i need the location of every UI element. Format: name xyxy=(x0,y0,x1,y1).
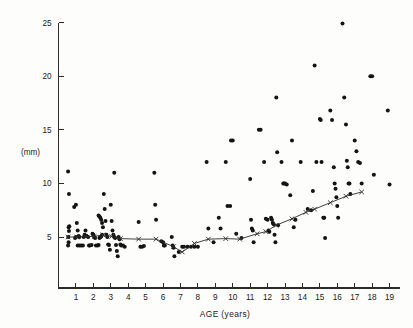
trend-marker-x xyxy=(328,200,333,205)
data-point xyxy=(182,245,186,249)
data-point xyxy=(66,244,70,248)
data-point xyxy=(342,96,346,100)
x-tick-label: 12 xyxy=(263,293,273,302)
data-point xyxy=(275,150,279,154)
trend-marker-x xyxy=(304,210,309,215)
data-point xyxy=(360,181,364,185)
data-point xyxy=(336,216,340,220)
data-point xyxy=(372,173,376,177)
data-point xyxy=(280,160,284,164)
data-point xyxy=(103,207,107,211)
data-point xyxy=(153,203,157,207)
y-tick-label: 15 xyxy=(42,126,52,135)
data-point xyxy=(262,160,266,164)
data-point xyxy=(90,243,94,247)
data-point xyxy=(123,245,127,249)
data-point xyxy=(116,254,120,258)
data-point xyxy=(142,244,146,248)
data-point xyxy=(314,160,318,164)
data-point xyxy=(330,118,334,122)
data-point xyxy=(115,249,119,253)
data-point xyxy=(228,204,232,208)
data-point xyxy=(273,240,277,244)
x-tick-label: 3 xyxy=(108,293,113,302)
data-point xyxy=(217,216,221,220)
data-point xyxy=(259,128,263,132)
data-point xyxy=(97,243,101,247)
y-tick-label: 25 xyxy=(42,19,52,28)
x-tick-label: 15 xyxy=(315,293,325,302)
x-axis-title: AGE (years) xyxy=(200,309,250,319)
x-tick-label: 7 xyxy=(178,293,183,302)
data-point xyxy=(84,229,88,233)
data-point xyxy=(332,165,336,169)
data-point xyxy=(386,108,390,112)
data-point xyxy=(252,240,256,244)
data-point xyxy=(311,189,315,193)
data-point xyxy=(100,221,104,225)
data-point xyxy=(74,203,78,207)
data-point xyxy=(172,254,176,258)
data-point xyxy=(108,248,112,252)
y-tick-labels: 510152025 xyxy=(42,19,52,243)
x-tick-label: 2 xyxy=(91,293,96,302)
data-points xyxy=(66,22,391,259)
trend-marker-x xyxy=(290,216,295,221)
x-tick-label: 6 xyxy=(161,293,166,302)
x-tick-label: 17 xyxy=(350,293,360,302)
x-tick-label: 11 xyxy=(246,293,255,302)
data-point xyxy=(345,159,349,163)
y-axis-unit-label: (mm) xyxy=(21,148,40,157)
tick-marks xyxy=(59,23,390,289)
y-tick-label: 5 xyxy=(47,233,52,242)
data-point xyxy=(231,138,235,142)
data-point xyxy=(320,160,324,164)
data-point xyxy=(102,192,106,196)
data-point xyxy=(67,192,71,196)
data-point xyxy=(333,181,337,185)
data-point xyxy=(334,195,338,199)
y-tick-label: 20 xyxy=(42,72,52,81)
data-point xyxy=(152,171,156,175)
x-tick-label: 13 xyxy=(280,293,290,302)
data-point xyxy=(67,225,71,229)
data-point xyxy=(107,243,111,247)
data-point xyxy=(313,63,317,67)
data-point xyxy=(328,108,332,112)
data-point xyxy=(335,204,339,208)
data-point xyxy=(274,96,278,100)
data-point xyxy=(388,182,392,186)
data-point xyxy=(288,193,292,197)
data-point xyxy=(358,161,362,165)
data-point xyxy=(67,229,71,233)
data-point xyxy=(370,74,374,78)
data-point xyxy=(323,236,327,240)
data-point xyxy=(299,160,303,164)
x-tick-label: 10 xyxy=(228,293,238,302)
x-tick-label: 5 xyxy=(143,293,148,302)
data-point xyxy=(66,170,70,174)
data-point xyxy=(334,187,338,191)
data-point xyxy=(170,235,174,239)
x-tick-label: 14 xyxy=(298,293,308,302)
data-point xyxy=(322,216,326,220)
data-point xyxy=(234,232,238,236)
data-point xyxy=(273,233,277,237)
data-point xyxy=(341,22,345,26)
data-point xyxy=(319,118,323,122)
data-point xyxy=(266,218,270,222)
data-point xyxy=(249,218,253,222)
x-tick-labels: 12345678910111213141516171819 xyxy=(74,293,395,302)
data-point xyxy=(76,229,80,233)
x-tick-label: 1 xyxy=(74,293,79,302)
data-point xyxy=(81,244,85,248)
data-point xyxy=(290,138,294,142)
data-point xyxy=(205,160,209,164)
data-point xyxy=(251,229,255,233)
data-point xyxy=(109,203,113,207)
data-point xyxy=(354,149,358,153)
data-point xyxy=(206,226,210,230)
data-point xyxy=(292,225,296,229)
figure-container: 12345678910111213141516171819 510152025 … xyxy=(0,0,413,328)
data-point xyxy=(353,138,357,142)
